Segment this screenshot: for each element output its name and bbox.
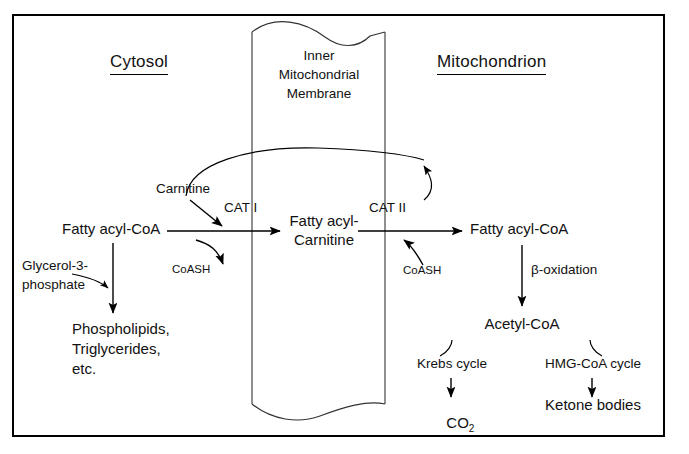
node-fatty-acyl-coa-cytosol: Fatty acyl-CoA [62,220,160,238]
arrow-carnitine-in [190,200,222,226]
node-coash-left: CoASH [172,263,210,277]
node-ketone-bodies: Ketone bodies [527,396,659,414]
node-products-line-2: Triglycerides, [72,340,161,358]
node-glycerol-3-phosphate-line-1: Glycerol-3- [22,258,88,274]
node-krebs-cycle: Krebs cycle [398,356,506,372]
enzyme-cat-2: CAT II [369,200,406,216]
node-carnitine: Carnitine [156,181,210,197]
arrow-coash-in-right [404,240,423,265]
node-products-line-1: Phospholipids, [72,320,170,338]
diagram-canvas: Cytosol Mitochondrion Inner Mitochondria… [0,0,689,454]
node-hmg-coa-cycle: HMG-CoA cycle [525,356,661,372]
membrane-label-line-1: Inner [252,48,386,64]
node-fatty-acyl-carnitine-line-2: Carnitine [272,231,376,249]
compartment-title-mitochondrion: Mitochondrion [437,52,546,75]
arrow-coash-out-left [196,240,223,264]
node-fatty-acyl-carnitine-line-1: Fatty acyl- [272,212,376,230]
compartment-title-cytosol: Cytosol [110,52,168,75]
node-acetyl-coa: Acetyl-CoA [462,315,582,333]
carnitine-return-arc [186,148,432,200]
node-coash-right: CoASH [403,264,441,278]
membrane-label-line-3: Membrane [252,86,386,102]
branch-acetylcoa-to-krebs [440,340,452,356]
branch-acetylcoa-to-hmgcoa [590,340,602,356]
node-glycerol-3-phosphate-line-2: phosphate [22,277,85,293]
co2-formula: CO [446,414,469,431]
enzyme-cat-1: CAT I [224,200,257,216]
node-co2: CO2 [414,396,490,452]
membrane-label-line-2: Mitochondrial [248,67,390,83]
co2-subscript: 2 [469,423,475,434]
node-products-line-3: etc. [72,360,96,378]
label-beta-oxidation: β-oxidation [531,262,597,278]
node-fatty-acyl-coa-matrix: Fatty acyl-CoA [470,220,568,238]
